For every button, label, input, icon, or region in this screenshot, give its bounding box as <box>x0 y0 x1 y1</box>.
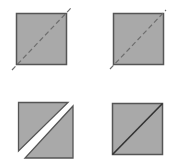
panel-step-3 <box>19 103 74 159</box>
panel-step-1 <box>12 8 71 70</box>
diagram-canvas <box>0 0 169 160</box>
panel-step-2 <box>110 10 166 69</box>
panel-step-4 <box>113 104 163 155</box>
